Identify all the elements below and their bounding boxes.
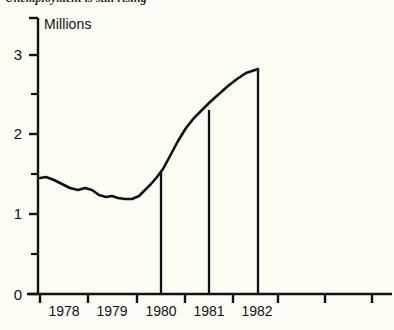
x-tick-label-1978: 1978 xyxy=(39,303,89,319)
y-tick-label-2: 2 xyxy=(2,125,22,142)
x-tick-label-1980: 1980 xyxy=(136,303,186,319)
x-tick-label-1981: 1981 xyxy=(184,303,234,319)
chart-figure: Unemployment is still rising Millions xyxy=(0,0,394,330)
plot-area xyxy=(0,0,394,330)
y-tick-label-1: 1 xyxy=(2,205,22,222)
x-tick-label-1979: 1979 xyxy=(87,303,137,319)
series-line-unemployed xyxy=(40,69,258,199)
y-tick-label-3: 3 xyxy=(2,46,22,63)
x-tick-label-1982: 1982 xyxy=(232,303,282,319)
x-axis-ticks xyxy=(40,294,372,303)
y-axis-major-ticks xyxy=(29,18,38,294)
y-tick-label-0: 0 xyxy=(2,286,22,303)
